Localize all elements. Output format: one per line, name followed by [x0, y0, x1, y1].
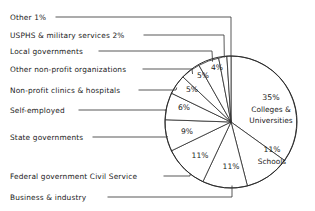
callout-label-federal-civil-service: Federal government Civil Service: [10, 172, 137, 181]
slice-value-clinics-pct: 5%: [186, 85, 198, 94]
callout-label-state-governments: State governments: [10, 133, 83, 142]
slice-name-schools: Schools: [258, 157, 287, 166]
slice-value-local-pct: 4%: [211, 63, 223, 72]
callout-label-other: Other 1%: [10, 13, 46, 22]
leader-line-business-industry: [108, 186, 232, 197]
leader-line-other-nonprofit: [143, 69, 193, 74]
callout-label-business-industry: Business & industry: [10, 193, 87, 202]
slice-value-other-nonprofit-pct: 5%: [197, 71, 209, 80]
leader-line-state-governments: [93, 137, 167, 138]
chart-canvas: Other 1% USPHS & military services 2% Lo…: [0, 0, 315, 211]
leader-line-local-governments: [99, 51, 213, 61]
callout-label-other-nonprofit: Other non-profit organizations: [10, 65, 126, 74]
slice-value-federal-pct: 11%: [192, 151, 209, 160]
callout-label-nonprofit-clinics: Non-profit clinics & hospitals: [10, 86, 120, 95]
slice-value-business-pct: 11%: [223, 162, 240, 171]
pie-chart-figure: Other 1% USPHS & military services 2% Lo…: [0, 0, 315, 211]
slice-value-state-pct: 9%: [181, 127, 193, 136]
callout-label-self-employed: Self-employed: [10, 106, 65, 115]
slice-name-colleges-line1: Colleges &: [251, 105, 291, 114]
slice-value-schools-pct: 11%: [264, 145, 281, 154]
callout-label-local-governments: Local governments: [10, 47, 83, 56]
callout-label-usphs: USPHS & military services 2%: [10, 31, 124, 40]
slice-value-colleges-pct: 35%: [262, 93, 279, 102]
slice-name-colleges-line2: Universities: [249, 116, 293, 125]
leader-line-nonprofit-clinics: [139, 88, 177, 90]
callout-labels: Other 1% USPHS & military services 2% Lo…: [10, 13, 137, 202]
slice-value-self-employed-pct: 6%: [178, 103, 190, 112]
leader-line-federal-civil-service: [164, 175, 190, 177]
